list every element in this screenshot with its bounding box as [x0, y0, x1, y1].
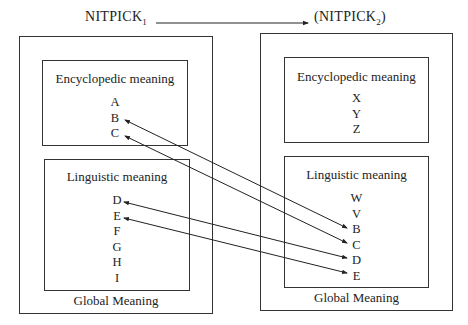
right-ling-item-d: D	[285, 253, 428, 269]
left-title-text: NITPICK	[85, 9, 142, 24]
left-linguistic-label: Linguistic meaning	[45, 169, 189, 185]
left-linguistic-box: Linguistic meaning D E F G H I	[44, 159, 190, 291]
right-linguistic-box: Linguistic meaning W V B C D E	[284, 156, 429, 288]
right-title-prefix: (NITPICK	[314, 9, 376, 24]
left-enc-item-a: A	[43, 95, 187, 111]
left-ling-item-h: H	[45, 255, 189, 271]
right-enc-item-y: Y	[285, 107, 428, 123]
left-ling-item-d: D	[45, 193, 189, 209]
right-ling-item-c: C	[285, 238, 428, 254]
right-title-suffix: )	[381, 9, 386, 24]
right-ling-item-b: B	[285, 222, 428, 238]
left-enc-item-c: C	[43, 126, 187, 142]
left-encyclopedic-box: Encyclopedic meaning A B C	[42, 60, 188, 146]
left-ling-item-i: I	[45, 271, 189, 287]
left-ling-item-f: F	[45, 224, 189, 240]
right-linguistic-items: W V B C D E	[285, 191, 428, 284]
right-encyclopedic-box: Encyclopedic meaning X Y Z	[284, 57, 429, 143]
left-linguistic-items: D E F G H I	[45, 193, 189, 286]
left-global-meaning-label: Global Meaning	[20, 293, 212, 309]
right-ling-item-w: W	[285, 191, 428, 207]
left-encyclopedic-items: A B C	[43, 95, 187, 142]
right-ling-item-v: V	[285, 207, 428, 223]
left-encyclopedic-label: Encyclopedic meaning	[43, 71, 187, 87]
right-global-meaning-label: Global Meaning	[261, 290, 452, 306]
right-encyclopedic-label: Encyclopedic meaning	[285, 69, 428, 85]
left-title-subscript: 1	[142, 17, 147, 27]
right-linguistic-label: Linguistic meaning	[285, 167, 428, 183]
left-concept-title: NITPICK1	[85, 9, 147, 27]
left-ling-item-g: G	[45, 240, 189, 256]
right-concept-title: (NITPICK2)	[314, 9, 386, 27]
right-enc-item-x: X	[285, 91, 428, 107]
left-ling-item-e: E	[45, 209, 189, 225]
left-enc-item-b: B	[43, 111, 187, 127]
right-enc-item-z: Z	[285, 122, 428, 138]
right-ling-item-e: E	[285, 269, 428, 285]
right-encyclopedic-items: X Y Z	[285, 91, 428, 138]
